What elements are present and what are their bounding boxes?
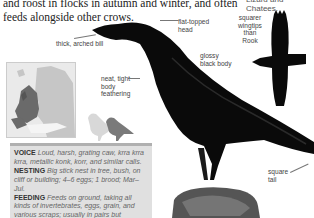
range-map (6, 62, 76, 138)
rock-perch (170, 182, 260, 218)
leader-feathering (128, 78, 140, 79)
species-info-box: VOICE Loud, harsh, grating caw, krra krr… (10, 143, 152, 218)
nesting-label: NESTING (14, 167, 45, 174)
label-tail: square tail (268, 168, 292, 183)
leader-head (160, 20, 178, 21)
label-head: flat-topped head (178, 18, 210, 33)
feeding-label: FEEDING (14, 194, 45, 201)
label-bill: thick, arched bill (56, 40, 103, 48)
voice-label: VOICE (14, 149, 36, 156)
europe-map-icon (7, 63, 75, 137)
label-wingtips: squarer wingtips than Rook (236, 14, 264, 44)
label-body: glossy black body (200, 52, 234, 67)
